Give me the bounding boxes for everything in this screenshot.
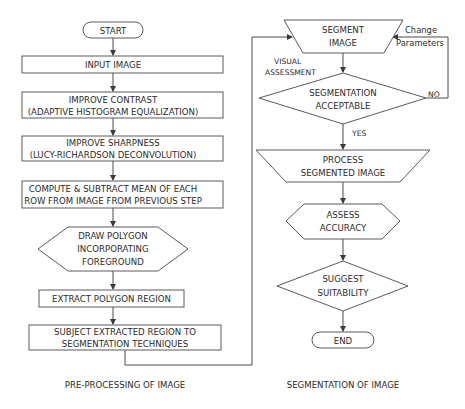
node-segment-image-line1: SEGMENT	[322, 25, 365, 35]
node-draw-polygon-line1: DRAW POLYGON	[78, 231, 148, 241]
yes-label: YES	[351, 129, 366, 138]
node-improve-sharpness: IMPROVE SHARPNESS (LUCY-RICHARDSON DECON…	[22, 136, 223, 161]
left-column-caption: PRE-PROCESSING OF IMAGE	[65, 380, 186, 390]
node-segment-image: SEGMENT IMAGE	[284, 20, 403, 53]
node-suggest-suitability-line2: SUITABILITY	[318, 288, 370, 298]
node-assess-accuracy-line1: ASSESS	[326, 210, 359, 220]
right-column-caption: SEGMENTATION OF IMAGE	[287, 380, 400, 390]
node-end: END	[312, 332, 374, 348]
decision-shape	[277, 261, 408, 311]
no-label: NO	[428, 90, 440, 99]
node-segmentation-acceptable-line1: SEGMENTATION	[309, 88, 377, 98]
visual-assessment-label-line1: VISUAL	[274, 57, 302, 66]
node-subject-region-line2: SEGMENTATION TECHNIQUES	[62, 339, 188, 349]
node-start-label: START	[100, 26, 127, 36]
change-parameters-label-line2: Parameters	[396, 38, 444, 48]
node-suggest-suitability: SUGGEST SUITABILITY	[277, 261, 408, 311]
node-segmentation-acceptable-line2: ACCEPTABLE	[316, 101, 371, 111]
node-process-segmented: PROCESS SEGMENTED IMAGE	[256, 150, 430, 182]
node-end-label: END	[334, 336, 353, 346]
node-segmentation-acceptable: SEGMENTATION ACCEPTABLE	[259, 73, 426, 124]
node-suggest-suitability-line1: SUGGEST	[322, 274, 364, 284]
node-assess-accuracy: ASSESS ACCURACY	[286, 204, 400, 239]
node-compute-subtract-mean-line1: COMPUTE & SUBTRACT MEAN OF EACH	[29, 184, 198, 194]
node-improve-contrast-line2: (ADAPTIVE HISTOGRAM EQUALIZATION)	[28, 107, 198, 117]
visual-assessment-label-line2: ASSESSMENT	[265, 68, 316, 77]
node-improve-sharpness-line2: (LUCY-RICHARDSON DECONVOLUTION)	[30, 150, 197, 160]
node-subject-region: SUBJECT EXTRACTED REGION TO SEGMENTATION…	[29, 325, 221, 350]
decision-shape	[259, 73, 426, 124]
node-process-segmented-line1: PROCESS	[323, 155, 363, 165]
node-improve-sharpness-line1: IMPROVE SHARPNESS	[66, 138, 159, 148]
change-parameters-label-line1: Change	[405, 25, 437, 35]
node-draw-polygon-line2: INCORPORATING	[77, 244, 148, 254]
node-subject-region-line1: SUBJECT EXTRACTED REGION TO	[54, 327, 196, 337]
node-draw-polygon-line3: FOREGROUND	[82, 257, 144, 267]
node-compute-subtract-mean: COMPUTE & SUBTRACT MEAN OF EACH ROW FROM…	[22, 181, 223, 208]
node-assess-accuracy-line2: ACCURACY	[320, 223, 367, 233]
node-draw-polygon: DRAW POLYGON INCORPORATING FOREGROUND	[38, 227, 188, 271]
node-input-image-label: INPUT IMAGE	[85, 60, 141, 70]
node-compute-subtract-mean-line2: ROW FROM IMAGE FROM PREVIOUS STEP	[24, 196, 202, 206]
node-improve-contrast-line1: IMPROVE CONTRAST	[69, 95, 158, 105]
node-input-image: INPUT IMAGE	[22, 56, 223, 73]
node-segment-image-line2: IMAGE	[329, 38, 357, 48]
flowchart-canvas: START INPUT IMAGE IMPROVE CONTRAST (ADAP…	[0, 0, 465, 409]
node-process-segmented-line2: SEGMENTED IMAGE	[301, 168, 386, 178]
node-improve-contrast: IMPROVE CONTRAST (ADAPTIVE HISTOGRAM EQU…	[22, 92, 223, 118]
node-extract-polygon: EXTRACT POLYGON REGION	[39, 290, 184, 307]
node-extract-polygon-label: EXTRACT POLYGON REGION	[52, 294, 171, 304]
node-start: START	[83, 22, 143, 38]
